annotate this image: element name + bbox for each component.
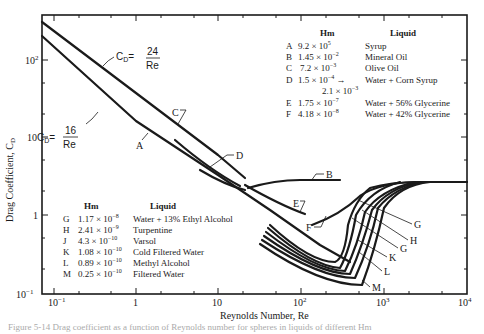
svg-text:Cold Filtered Water: Cold Filtered Water [133, 247, 204, 257]
svg-text:Olive Oil: Olive Oil [365, 63, 399, 73]
svg-text:M: M [63, 269, 71, 279]
svg-text:Water + 13% Ethyl Alcohol: Water + 13% Ethyl Alcohol [133, 214, 233, 224]
svg-text:24: 24 [147, 46, 159, 57]
svg-text:L: L [63, 258, 69, 268]
svg-text:H: H [63, 225, 70, 235]
label-H: G [414, 219, 421, 230]
svg-text:10: 10 [27, 132, 37, 143]
svg-text:G: G [63, 214, 70, 224]
svg-text:0.25 × 10−10: 0.25 × 10−10 [78, 268, 122, 279]
x-axis-label: Reynolds Number, Re [220, 310, 309, 321]
equation-16-over-re: CD= 16 Re [37, 112, 98, 150]
svg-text:Liquid: Liquid [150, 201, 176, 211]
svg-text:103: 103 [376, 296, 390, 308]
x-tick-labels: 10−1 1 10 102 103 104 [48, 296, 472, 308]
svg-text:Water + 56% Glycerine: Water + 56% Glycerine [365, 98, 450, 108]
equation-24-over-re: CD= 24 Re [103, 46, 160, 71]
svg-text:D: D [286, 75, 293, 85]
curve-F [312, 182, 467, 225]
svg-text:Hm: Hm [320, 28, 335, 38]
drag-coefficient-chart: 10−1 1 10 102 103 104 10−1 1 10 102 Reyn… [0, 0, 484, 334]
svg-text:16: 16 [65, 125, 77, 136]
svg-text:102: 102 [293, 296, 307, 308]
label-C: C [172, 107, 179, 118]
figure-caption: Figure 5-14 Drag coefficient as a functi… [8, 322, 484, 332]
legend-upper: Hm Liquid A 9.2 × 105 Syrup B 1.45 × 10−… [286, 28, 450, 119]
legend-lower: Hm Liquid G 1.17 × 10−8 Water + 13% Ethy… [63, 201, 233, 279]
svg-text:0.89 × 10−10: 0.89 × 10−10 [78, 257, 122, 268]
svg-text:Turpentine: Turpentine [133, 225, 172, 235]
svg-text:1.45 × 10−2: 1.45 × 10−2 [298, 51, 339, 62]
y-axis-label: Drag Coefficient, CD [4, 138, 17, 222]
svg-text:Liquid: Liquid [390, 28, 416, 38]
svg-text:Hm: Hm [84, 201, 99, 211]
svg-text:7.2 × 10−3: 7.2 × 10−3 [300, 62, 336, 73]
label-D: D [236, 150, 243, 161]
svg-text:104: 104 [458, 296, 472, 308]
svg-text:CD=: CD= [37, 132, 55, 144]
svg-text:F: F [286, 109, 291, 119]
svg-text:Re: Re [146, 60, 159, 71]
svg-text:1.17 × 10−8: 1.17 × 10−8 [78, 213, 119, 224]
label-G: G [400, 243, 407, 254]
label-B: B [326, 169, 333, 180]
svg-text:Methyl Alcohol: Methyl Alcohol [133, 258, 190, 268]
svg-text:Filtered Water: Filtered Water [133, 269, 184, 279]
svg-text:Water + Corn Syrup: Water + Corn Syrup [365, 75, 438, 85]
svg-text:10: 10 [212, 297, 222, 308]
svg-text:1.75 × 10−7: 1.75 × 10−7 [298, 97, 339, 108]
svg-text:CD=: CD= [116, 51, 134, 63]
svg-text:Water + 42% Glycerine: Water + 42% Glycerine [365, 109, 450, 119]
curve-B [248, 180, 340, 188]
svg-text:E: E [286, 98, 292, 108]
svg-text:102: 102 [25, 54, 39, 66]
svg-text:1: 1 [133, 297, 138, 308]
svg-text:J: J [63, 236, 67, 246]
curve-24-over-re [42, 22, 245, 178]
y-tick-labels: 10−1 1 10 102 [16, 54, 39, 300]
svg-text:C: C [286, 63, 292, 73]
svg-text:B: B [286, 52, 292, 62]
svg-text:Re: Re [63, 139, 76, 150]
svg-text:10−1: 10−1 [48, 296, 66, 308]
svg-text:2.41 × 10−9: 2.41 × 10−9 [78, 224, 119, 235]
curve-L [262, 182, 425, 278]
svg-text:4.18 × 10−8: 4.18 × 10−8 [298, 108, 339, 119]
label-J: H [410, 235, 417, 246]
curve-M [260, 182, 467, 285]
svg-text:Mineral Oil: Mineral Oil [365, 52, 408, 62]
svg-text:K: K [63, 247, 70, 257]
label-E: E [293, 198, 299, 209]
label-A: A [136, 140, 144, 151]
svg-text:1.08 × 10−10: 1.08 × 10−10 [78, 246, 122, 257]
svg-text:2.1 × 10−3: 2.1 × 10−3 [322, 85, 358, 96]
svg-text:1.5 × 10−4 →: 1.5 × 10−4 → [298, 74, 345, 85]
svg-text:A: A [286, 41, 293, 51]
label-L: L [384, 266, 390, 277]
label-F: F [306, 222, 312, 233]
svg-text:Syrup: Syrup [365, 41, 387, 51]
svg-text:9.2 × 105: 9.2 × 105 [298, 40, 331, 51]
svg-text:10−1: 10−1 [16, 288, 34, 300]
svg-text:4.3 × 10−10: 4.3 × 10−10 [78, 235, 117, 246]
label-M: M [372, 282, 381, 293]
svg-text:1: 1 [33, 210, 38, 221]
label-K: K [389, 252, 397, 263]
svg-text:Varsol: Varsol [133, 236, 156, 246]
